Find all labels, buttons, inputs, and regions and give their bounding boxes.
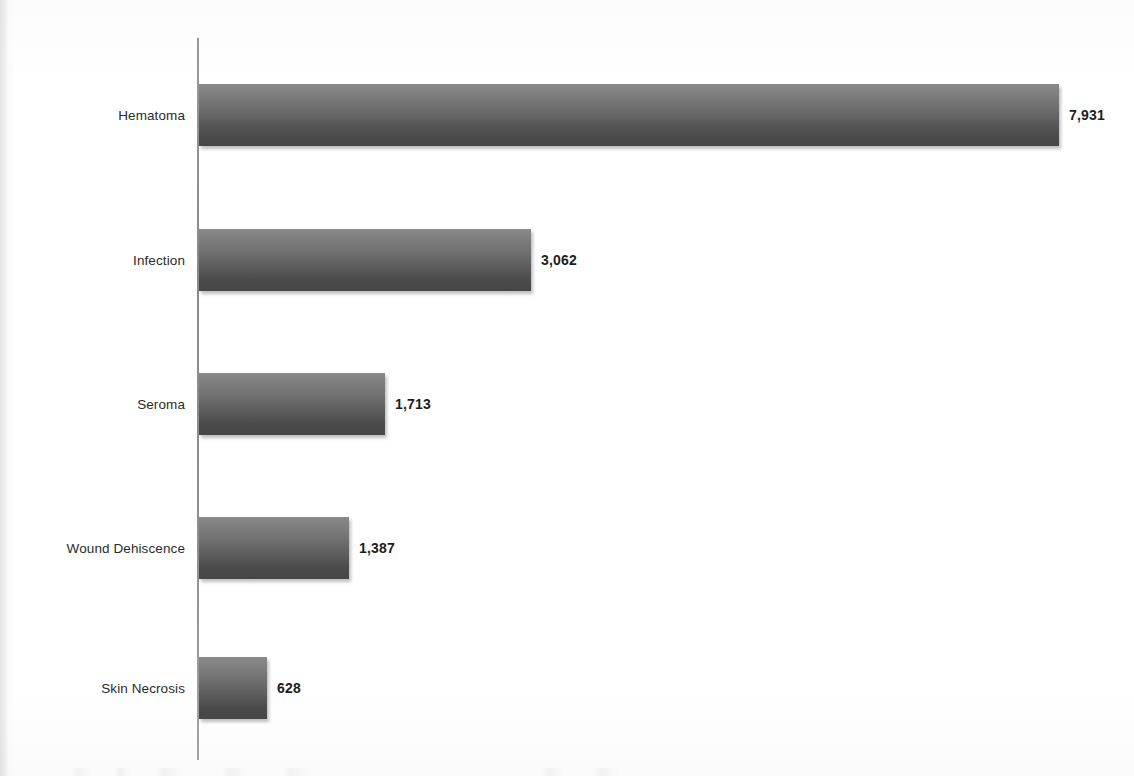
bar-row: Seroma 1,713: [0, 373, 1134, 435]
category-label-skin-necrosis: Skin Necrosis: [101, 681, 185, 696]
category-label-infection: Infection: [133, 253, 185, 268]
bar-row: Skin Necrosis 628: [0, 657, 1134, 719]
bar-hematoma[interactable]: [199, 84, 1059, 146]
bar-skin-necrosis[interactable]: [199, 657, 267, 719]
chart-page: Hematoma 7,931 Infection 3,062 Seroma 1,…: [0, 0, 1134, 776]
bar-value-skin-necrosis: 628: [277, 680, 301, 696]
bar-value-infection: 3,062: [541, 252, 577, 268]
bar-seroma[interactable]: [199, 373, 385, 435]
scan-cutoff-text-ghost: [72, 768, 692, 776]
bar-row: Wound Dehiscence 1,387: [0, 517, 1134, 579]
bar-row: Infection 3,062: [0, 229, 1134, 291]
category-label-seroma: Seroma: [137, 397, 185, 412]
category-label-hematoma: Hematoma: [118, 108, 185, 123]
bar-value-hematoma: 7,931: [1069, 107, 1105, 123]
category-label-wound-dehiscence: Wound Dehiscence: [67, 541, 185, 556]
bar-row: Hematoma 7,931: [0, 84, 1134, 146]
bar-chart-plot-area: Hematoma 7,931 Infection 3,062 Seroma 1,…: [0, 0, 1134, 776]
bar-wound-dehiscence[interactable]: [199, 517, 349, 579]
bar-infection[interactable]: [199, 229, 531, 291]
bar-value-seroma: 1,713: [395, 396, 431, 412]
bar-value-wound-dehiscence: 1,387: [359, 540, 395, 556]
